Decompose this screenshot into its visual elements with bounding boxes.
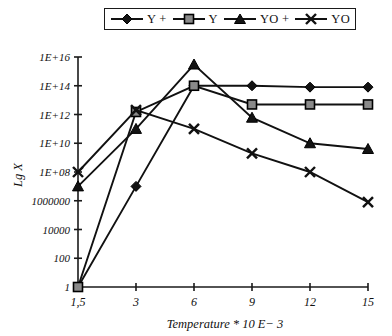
x-tick-label: 15 — [362, 295, 374, 309]
series-yo — [73, 59, 374, 191]
data-point-marker — [305, 82, 315, 92]
data-point-marker — [189, 59, 200, 69]
data-point-marker — [363, 197, 373, 207]
y-tick-label: 1E+14 — [39, 80, 70, 92]
x-tick-label: 9 — [249, 295, 255, 309]
data-point-marker — [364, 100, 373, 109]
y-tick-label: 1000000 — [32, 195, 71, 207]
x-tick-label: 3 — [132, 295, 139, 309]
y-tick-label: 1E+08 — [39, 166, 70, 178]
y-tick-label: 100 — [54, 252, 71, 264]
data-point-marker — [248, 100, 257, 109]
series-y — [73, 81, 373, 292]
data-point-marker — [247, 148, 257, 158]
x-tick-label: 12 — [304, 295, 316, 309]
series-y — [74, 81, 373, 291]
y-axis: 1E+161E+141E+121E+101E+08100000010000100… — [32, 51, 83, 293]
data-point-marker — [305, 167, 315, 177]
x-tick-label: 6 — [191, 295, 197, 309]
x-tick-label: 1,5 — [71, 295, 86, 309]
data-point-marker — [74, 283, 83, 292]
y-tick-label: 10000 — [43, 224, 71, 236]
data-point-marker — [190, 81, 199, 90]
y-tick-label: 1 — [65, 281, 71, 293]
data-point-marker — [363, 82, 373, 92]
y-tick-label: 1E+12 — [39, 109, 70, 121]
data-point-marker — [306, 100, 315, 109]
x-axis: 1,53691215 — [71, 283, 375, 309]
data-point-marker — [247, 81, 257, 91]
y-tick-label: 1E+10 — [39, 137, 70, 149]
x-axis-title: Temperature * 10 E− 3 — [167, 317, 284, 331]
plot-area: 1E+161E+141E+121E+101E+08100000010000100… — [0, 0, 392, 336]
y-axis-title: Lg X — [11, 162, 25, 188]
y-tick-label: 1E+16 — [39, 51, 70, 63]
data-point-marker — [131, 181, 141, 191]
chart-container: Y + Y YO + YO 1E+161E+14 — [0, 0, 392, 336]
data-series-group — [73, 59, 374, 292]
series-yo — [73, 105, 373, 207]
data-point-marker — [189, 124, 199, 134]
